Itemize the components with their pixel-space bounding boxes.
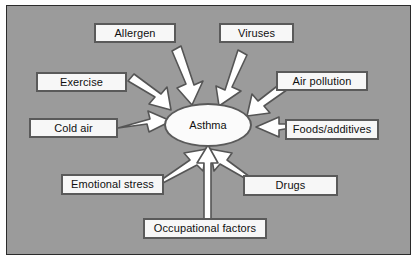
center-node-label: Asthma xyxy=(189,119,226,131)
node-viruses[interactable]: Viruses xyxy=(219,23,294,43)
node-exercise-label: Exercise xyxy=(60,77,103,88)
node-exercise[interactable]: Exercise xyxy=(36,72,127,92)
node-drugs[interactable]: Drugs xyxy=(243,175,338,196)
node-emotional-stress-label: Emotional stress xyxy=(71,179,154,190)
node-drugs-label: Drugs xyxy=(276,180,306,191)
node-air-pollution-label: Air pollution xyxy=(293,76,352,87)
diagram-page: Allergen Viruses Exercise Air pollution … xyxy=(0,0,417,261)
node-foods-additives[interactable]: Foods/additives xyxy=(285,119,379,140)
arrow-emotional-stress xyxy=(159,149,207,185)
node-occupational-factors[interactable]: Occupational factors xyxy=(143,218,267,239)
node-emotional-stress[interactable]: Emotional stress xyxy=(61,174,164,195)
center-node-asthma[interactable]: Asthma xyxy=(164,103,252,147)
arrow-cold-air xyxy=(118,111,171,132)
arrow-allergen xyxy=(172,46,203,105)
node-cold-air[interactable]: Cold air xyxy=(29,118,118,138)
node-air-pollution[interactable]: Air pollution xyxy=(276,71,368,91)
node-allergen[interactable]: Allergen xyxy=(94,23,176,43)
node-foods-additives-label: Foods/additives xyxy=(293,124,372,135)
node-cold-air-label: Cold air xyxy=(54,123,93,134)
arrow-viruses xyxy=(216,50,247,106)
node-viruses-label: Viruses xyxy=(238,28,275,39)
node-allergen-label: Allergen xyxy=(114,28,155,39)
node-occupational-factors-label: Occupational factors xyxy=(154,223,256,234)
arrow-exercise xyxy=(128,74,171,110)
